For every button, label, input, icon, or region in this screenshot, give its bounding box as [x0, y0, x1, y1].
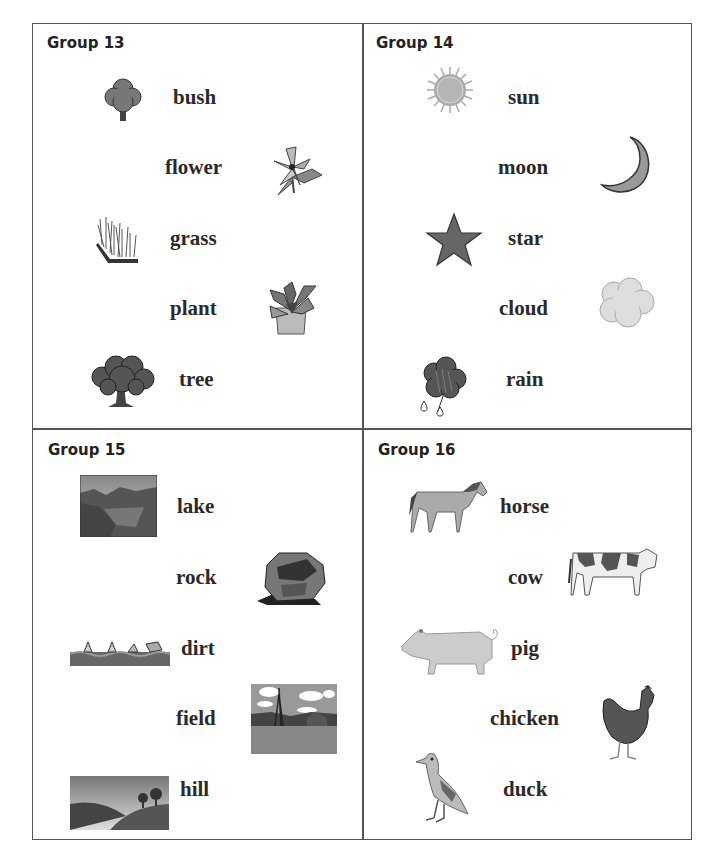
word-star: star [508, 226, 543, 251]
group-title: Group 16 [378, 441, 456, 459]
worksheet [32, 23, 692, 840]
word-dirt: dirt [181, 636, 215, 661]
word-sun: sun [508, 85, 540, 110]
group-title: Group 15 [48, 441, 126, 459]
potted-plant-icon [266, 280, 322, 336]
word-duck: duck [503, 777, 547, 802]
lake-photo-icon [80, 475, 157, 537]
word-cow: cow [508, 565, 543, 590]
horse-icon [403, 480, 489, 536]
group-title: Group 14 [376, 34, 454, 52]
word-field: field [176, 706, 216, 731]
cow-icon [567, 543, 659, 603]
word-cloud: cloud [499, 296, 548, 321]
word-moon: moon [498, 155, 548, 180]
flower-icon [264, 145, 324, 197]
word-rock: rock [176, 565, 216, 590]
bush-icon [103, 75, 143, 123]
rain-cloud-icon [416, 355, 472, 417]
horizontal-divider [33, 428, 691, 430]
word-lake: lake [177, 494, 214, 519]
word-chicken: chicken [490, 706, 559, 731]
group-title: Group 13 [47, 34, 125, 52]
word-flower: flower [165, 155, 222, 180]
dirt-icon [70, 640, 170, 666]
word-rain: rain [506, 367, 543, 392]
cloud-icon [598, 276, 656, 330]
word-pig: pig [511, 636, 539, 661]
word-bush: bush [173, 85, 216, 110]
star-icon [425, 212, 483, 268]
tree-icon [88, 355, 156, 409]
hill-photo-icon [70, 776, 169, 830]
sun-icon [426, 66, 474, 114]
field-photo-icon [251, 684, 337, 754]
word-horse: horse [500, 494, 549, 519]
duck-icon [416, 750, 476, 826]
crescent-moon-icon [600, 135, 654, 195]
rock-icon [257, 551, 329, 607]
word-grass: grass [170, 226, 217, 251]
vertical-divider [362, 24, 364, 839]
word-plant: plant [170, 296, 217, 321]
word-tree: tree [179, 367, 214, 392]
word-hill: hill [180, 777, 209, 802]
pig-icon [400, 624, 500, 676]
chicken-icon [598, 685, 658, 763]
grass-icon [94, 215, 140, 265]
